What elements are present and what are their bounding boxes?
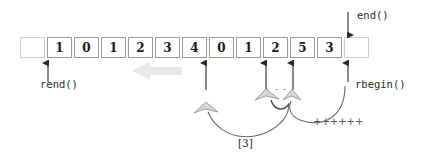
increment-label: ++++++ xyxy=(313,117,363,127)
traversal-direction-arrow xyxy=(132,62,182,80)
sequence-cells: 10123401253 xyxy=(20,37,371,58)
sequence-cell: 2 xyxy=(128,37,153,58)
decrement-label: - - xyxy=(275,85,287,94)
index-to-element-curve xyxy=(208,103,289,137)
index-label: [3] xyxy=(238,138,253,149)
end-label: end() xyxy=(357,10,389,21)
rbegin-label: rbegin() xyxy=(355,79,406,90)
sequence-cell-empty xyxy=(344,37,369,58)
sequence-cell: 0 xyxy=(209,37,234,58)
sequence-cell: 2 xyxy=(263,37,288,58)
chevron-link-curve xyxy=(271,100,289,109)
sequence-cell: 1 xyxy=(101,37,126,58)
sequence-cell: 4 xyxy=(182,37,207,58)
sequence-cell: 0 xyxy=(74,37,99,58)
sequence-cell: 3 xyxy=(155,37,180,58)
sequence-cell: 1 xyxy=(236,37,261,58)
rend-label: rend() xyxy=(40,79,78,90)
gray-chevron-index-icon xyxy=(194,102,218,113)
sequence-cell-empty xyxy=(20,37,45,58)
sequence-cell: 1 xyxy=(47,37,72,58)
sequence-cell: 3 xyxy=(317,37,342,58)
reverse-iterator-diagram: 10123401253 rend() end() rbegin() [3] ++… xyxy=(0,0,422,160)
sequence-cell: 5 xyxy=(290,37,315,58)
